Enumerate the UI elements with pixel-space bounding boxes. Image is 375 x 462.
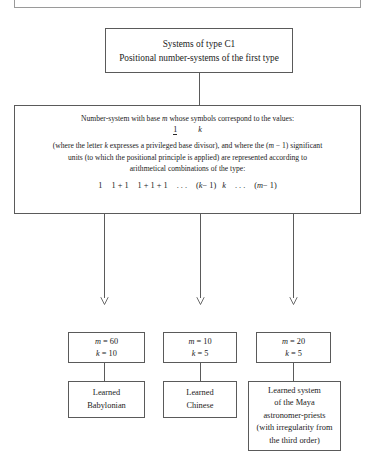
result-1-line-2: Babylonian xyxy=(87,400,126,412)
definition-line-4: arithmetical combinations of the type: xyxy=(130,163,246,174)
arrowhead-down-icon-1 xyxy=(100,296,109,305)
params-m-value-2: = 10 xyxy=(197,337,212,346)
arrowhead-down-icon-3 xyxy=(289,296,298,305)
connector-definition-to-branch-1 xyxy=(104,214,105,298)
result-1-line-1: Learned xyxy=(93,387,120,399)
node-result-maya: Learned system of the Maya astronomer-pr… xyxy=(248,381,341,451)
params-m-line-2: m = 10 xyxy=(188,336,211,348)
formula-ellipsis-2: . . . xyxy=(235,181,245,190)
clipped-top-box: g xyxy=(14,0,361,8)
node-result-babylonian: Learned Babylonian xyxy=(68,381,145,418)
result-2-line-2: Chinese xyxy=(187,400,214,412)
connector-params-to-result-2 xyxy=(200,363,201,381)
formula-ellipsis-1: . . . xyxy=(177,181,187,190)
params-k-line-2: k = 5 xyxy=(192,348,209,360)
result-3-line-4: (with irregularity from xyxy=(257,422,333,434)
params-k-line-1: k = 10 xyxy=(96,348,117,360)
formula-term-1: 1 xyxy=(98,181,102,190)
params-m-value-1: = 60 xyxy=(103,337,118,346)
connector-c1-to-definition xyxy=(199,73,200,105)
formula-term-6-close: − 1) xyxy=(263,181,277,190)
params-k-value-1: = 10 xyxy=(102,349,117,358)
params-m-line-1: m = 60 xyxy=(95,336,118,348)
formula-term-5-symbol-k: k xyxy=(222,181,226,190)
params-k-label-3: k xyxy=(285,349,289,358)
node-c1-line-2: Positional number-systems of the first t… xyxy=(119,51,279,65)
definition-line-1-suffix: whose symbols correspond to the values: xyxy=(167,114,294,123)
result-3-line-3: astronomer-priests xyxy=(263,410,325,422)
node-params-babylonian: m = 60 k = 10 xyxy=(68,332,145,363)
connector-definition-to-branch-3 xyxy=(293,214,294,298)
params-m-value-3: = 20 xyxy=(290,337,305,346)
formula-term-2: 1 + 1 xyxy=(111,181,128,190)
definition-line-2-a: (where the letter xyxy=(53,141,105,150)
node-params-chinese: m = 10 k = 5 xyxy=(163,332,237,363)
params-k-line-3: k = 5 xyxy=(285,348,302,360)
definition-symbol-k: k xyxy=(198,125,202,134)
definition-line-1: Number-system with base m whose symbols … xyxy=(81,113,294,124)
params-k-value-2: = 5 xyxy=(197,349,208,358)
definition-line-2-b: expresses a privileged base divisor), an… xyxy=(108,141,269,150)
connector-definition-to-branch-2 xyxy=(200,214,201,298)
result-3-line-1: Learned system xyxy=(268,385,321,397)
node-definition: Number-system with base m whose symbols … xyxy=(14,105,361,214)
result-2-line-1: Learned xyxy=(186,387,213,399)
definition-line-3: units (to which the positional principle… xyxy=(68,152,307,163)
params-m-line-3: m = 20 xyxy=(282,336,305,348)
diagram-canvas: g Systems of type C1 Positional number-s… xyxy=(0,0,375,462)
params-k-label-2: k xyxy=(192,349,196,358)
definition-line-2: (where the letter k expresses a privileg… xyxy=(53,140,323,151)
result-3-line-2: of the Maya xyxy=(274,397,314,409)
params-m-label-3: m xyxy=(282,337,288,346)
definition-symbols-row: 1k xyxy=(173,125,202,134)
formula-term-4-close: − 1) xyxy=(203,181,217,190)
params-k-label-1: k xyxy=(96,349,100,358)
params-k-value-3: = 5 xyxy=(291,349,302,358)
formula-term-3: 1 + 1 + 1 xyxy=(138,181,168,190)
definition-line-1-prefix: Number-system with base xyxy=(81,114,162,123)
node-c1-line-1: Systems of type C1 xyxy=(163,37,236,51)
params-m-label-1: m xyxy=(95,337,101,346)
result-3-line-5: the third order) xyxy=(269,435,320,447)
node-result-chinese: Learned Chinese xyxy=(163,381,237,418)
definition-formula: 11 + 11 + 1 + 1. . .(k − 1)k. . .(m − 1) xyxy=(98,181,276,190)
definition-line-2-c: − 1) significant xyxy=(274,141,322,150)
node-systems-type-c1: Systems of type C1 Positional number-sys… xyxy=(105,28,293,73)
connector-params-to-result-1 xyxy=(104,363,105,381)
node-params-maya: m = 20 k = 5 xyxy=(256,332,331,363)
connector-params-to-result-3 xyxy=(293,363,294,381)
params-m-label-2: m xyxy=(188,337,194,346)
definition-symbol-one: 1 xyxy=(173,125,177,135)
arrowhead-down-icon-2 xyxy=(196,296,205,305)
